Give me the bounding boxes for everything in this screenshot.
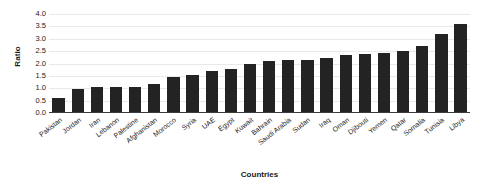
bar-slot: [164, 14, 183, 112]
x-tick-slot: Libya: [451, 114, 470, 164]
bar-slot: [279, 14, 298, 112]
x-tick-label: Syria: [180, 116, 197, 131]
bar: [225, 69, 237, 112]
y-tick-label: 3.5: [20, 23, 46, 31]
bar: [454, 24, 466, 112]
bar: [378, 53, 390, 112]
bar-slot: [126, 14, 145, 112]
bar: [148, 84, 160, 112]
bar-series: [49, 14, 470, 112]
bar-slot: [106, 14, 125, 112]
y-tick-label: 4.0: [20, 10, 46, 18]
y-tick-label: 0.5: [20, 97, 46, 105]
x-tick-label: Pakistan: [37, 116, 62, 138]
bar: [320, 58, 332, 112]
x-tick-label: Iraq: [317, 116, 331, 129]
bar-slot: [432, 14, 451, 112]
x-tick-label: Iran: [87, 116, 101, 129]
bar-chart: Ratio 4.03.53.02.52.01.51.00.50.0 Pakist…: [0, 0, 479, 192]
bar: [129, 87, 141, 112]
y-tick-label: 1.5: [20, 72, 46, 80]
bar-slot: [413, 14, 432, 112]
bar: [301, 60, 313, 112]
bar: [435, 34, 447, 112]
x-tick-slot: Oman: [336, 114, 355, 164]
x-tick-slot: Somalia: [413, 114, 432, 164]
bar: [359, 54, 371, 112]
y-tick-label: 0.0: [20, 109, 46, 117]
x-tick-slot: Afghanistan: [145, 114, 164, 164]
x-axis-title: Countries: [49, 170, 470, 179]
x-tick-label: UAE: [200, 116, 216, 130]
bar: [416, 46, 428, 112]
bar: [186, 75, 198, 112]
bar-slot: [145, 14, 164, 112]
x-tick-slot: Syria: [183, 114, 202, 164]
x-axis-tick-labels: PakistanJordanIranLebanonPalestineAfghan…: [49, 114, 470, 164]
bar-slot: [68, 14, 87, 112]
x-tick-slot: Yemen: [374, 114, 393, 164]
bar: [72, 89, 84, 113]
bar: [340, 55, 352, 112]
y-tick-label: 1.0: [20, 85, 46, 93]
bar-slot: [240, 14, 259, 112]
x-tick-slot: Qatar: [394, 114, 413, 164]
x-tick-slot: Djibouti: [355, 114, 374, 164]
bar: [397, 51, 409, 112]
y-tick-label: 2.5: [20, 47, 46, 55]
x-tick-slot: Jordan: [68, 114, 87, 164]
bar: [206, 71, 218, 112]
x-tick-slot: Pakistan: [49, 114, 68, 164]
bar-slot: [336, 14, 355, 112]
bar-slot: [394, 14, 413, 112]
x-tick-slot: Iraq: [317, 114, 336, 164]
bar-slot: [317, 14, 336, 112]
bar-slot: [298, 14, 317, 112]
bar-slot: [202, 14, 221, 112]
bar-slot: [183, 14, 202, 112]
y-tick-label: 2.0: [20, 60, 46, 68]
bar-slot: [260, 14, 279, 112]
bar: [244, 64, 256, 112]
x-tick-slot: Morocco: [164, 114, 183, 164]
y-tick-label: 3.0: [20, 35, 46, 43]
x-tick-slot: Tunisia: [432, 114, 451, 164]
x-tick-slot: UAE: [202, 114, 221, 164]
x-axis-line: [49, 112, 470, 113]
plot-area: [49, 14, 470, 113]
bar-slot: [87, 14, 106, 112]
x-tick-slot: Egypt: [221, 114, 240, 164]
bar-slot: [221, 14, 240, 112]
bar-slot: [49, 14, 68, 112]
bar: [282, 60, 294, 112]
bar: [52, 98, 64, 112]
bar: [110, 87, 122, 112]
bar-slot: [374, 14, 393, 112]
bar-slot: [355, 14, 374, 112]
bar: [91, 87, 103, 112]
y-axis-tick-labels: 4.03.53.02.52.01.51.00.50.0: [20, 14, 46, 113]
bar: [167, 77, 179, 112]
bar: [263, 61, 275, 112]
bar-slot: [451, 14, 470, 112]
x-tick-slot: Iran: [87, 114, 106, 164]
x-tick-slot: Sudan: [298, 114, 317, 164]
x-tick-slot: Saudi Arabia: [279, 114, 298, 164]
